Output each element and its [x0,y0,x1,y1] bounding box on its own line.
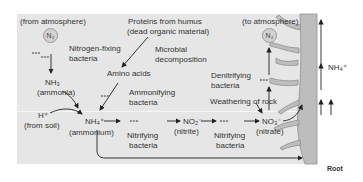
ammonifying-label-2: bacteria [129,98,157,107]
nitrogen-fixing-label-2: bacteria [69,54,97,63]
nh3-label: NH₃ [45,78,60,87]
nitrifying-1-label-2: bacteria [129,141,157,150]
microbial-decomposition-label-2: decomposition [155,55,207,64]
denitrifying-label-2: bacteria [211,81,239,90]
no2-label: NO₂⁻ [183,117,202,126]
from-soil-label: (from soil) [24,121,60,130]
nitrogen-fixing-label-1: Nitrogen-fixing [69,44,121,53]
n2-left-bubble: N₂ [43,28,58,43]
bacteria-icon: ∘∘∘ [259,77,268,82]
bacteria-icon: ∘∘∘ [31,50,40,55]
ammonifying-label-1: Ammonifying [129,88,175,97]
amino-acids-label: Amino acids [107,69,151,78]
to-atmosphere-label: (to atmosphere) [242,17,298,26]
nitrate-label: (nitrate) [256,127,284,136]
nitrifying-2-label-2: bacteria [216,141,244,150]
ammonia-label: (ammonia) [37,88,75,97]
bacteria-icon: ∘∘∘ [100,93,109,98]
weathering-label: Weathering of rock [210,97,277,106]
root-illustration [270,14,317,164]
denitrifying-label-1: Denitrifying [211,71,251,80]
proteins-label-1: Proteins from humus [128,17,202,26]
root-label: Root [327,165,343,172]
bacteria-icon: ∘∘∘ [129,118,138,123]
proteins-label-2: (dead organic material) [127,27,209,36]
microbial-decomposition-label-1: Microbial [155,45,187,54]
no3-label: NO₃⁻ [262,117,281,126]
bacteria-icon: ∘∘∘ [40,54,49,59]
nh4-root-label: NH₄⁺ [328,63,347,72]
nitrifying-2-label-1: Nitrifying [214,131,245,140]
nitrite-label: (nitrite) [174,127,199,136]
ammonium-label: (ammonium) [69,128,114,137]
nitrifying-1-label-1: Nitrifying [127,131,158,140]
n2-right-bubble: N₂ [262,28,277,43]
h-plus-label: H⁺ [38,111,48,120]
nh4-label: NH₄⁺ [85,117,104,126]
bacteria-icon: ∘∘∘ [219,118,228,123]
from-atmosphere-label: (from atmosphere) [20,17,86,26]
